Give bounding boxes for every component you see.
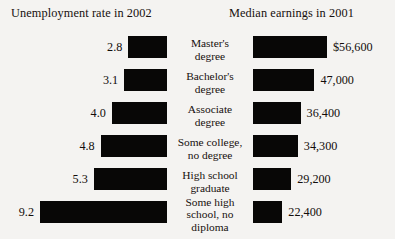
earnings-value-label: 29,200: [297, 170, 331, 188]
chart-row: 9.2 Some high school, no diploma 22,400: [0, 198, 395, 231]
earnings-bar-zone: 47,000: [253, 66, 395, 99]
category-label-line2: degree: [195, 50, 225, 62]
unemployment-value-label: 2.8: [107, 38, 122, 56]
unemployment-bar-zone: 4.8: [0, 132, 167, 165]
chart-row: 4.8 Some college, no degree 34,300: [0, 132, 395, 165]
category-label-line2: degree: [195, 116, 225, 128]
unemployment-value-label: 9.2: [19, 203, 34, 221]
category-label-line2: graduate: [190, 182, 229, 194]
earnings-value-label: 36,400: [307, 104, 341, 122]
unemployment-bar-zone: 4.0: [0, 99, 167, 132]
unemployment-bar-zone: 9.2: [0, 198, 167, 231]
earnings-bar-zone: 36,400: [253, 99, 395, 132]
unemployment-bar: [40, 201, 167, 223]
category-label-line3: diploma: [191, 221, 228, 233]
earnings-bar-zone: $56,600: [253, 33, 395, 66]
category-label: Associate degree: [172, 99, 248, 132]
earnings-value-label: 22,400: [288, 203, 322, 221]
chart-row: 4.0 Associate degree 36,400: [0, 99, 395, 132]
unemployment-value-label: 4.0: [91, 104, 106, 122]
unemployment-value-label: 4.8: [79, 137, 94, 155]
earnings-bar-zone: 29,200: [253, 165, 395, 198]
earnings-bar-zone: 22,400: [253, 198, 395, 231]
earnings-bar: [253, 201, 282, 223]
category-label: Master's degree: [172, 33, 248, 66]
unemployment-bar: [124, 69, 167, 91]
category-label-line2: no degree: [188, 149, 233, 161]
unemployment-bar: [112, 102, 167, 124]
earnings-bar: [253, 135, 298, 157]
earnings-bar: [253, 69, 314, 91]
category-label-line1: High school: [182, 169, 237, 181]
unemployment-bar-zone: 3.1: [0, 66, 167, 99]
earnings-value-label: 34,300: [304, 137, 338, 155]
unemployment-bar-zone: 2.8: [0, 33, 167, 66]
earnings-bar: [253, 36, 327, 58]
unemployment-bar: [94, 168, 167, 190]
category-label-line1: Associate: [188, 103, 232, 115]
category-label-line2: school, no: [187, 208, 234, 220]
category-label-line1: Some college,: [178, 136, 243, 148]
earnings-bar-zone: 34,300: [253, 132, 395, 165]
unemployment-bar-zone: 5.3: [0, 165, 167, 198]
chart-row: 2.8 Master's degree $56,600: [0, 33, 395, 66]
category-label: Some college, no degree: [172, 132, 248, 165]
chart-row: 5.3 High school graduate 29,200: [0, 165, 395, 198]
unemployment-bar: [128, 36, 167, 58]
unemployment-value-label: 3.1: [103, 71, 118, 89]
earnings-value-label: $56,600: [333, 38, 373, 56]
earnings-value-label: 47,000: [320, 71, 354, 89]
earnings-bar: [253, 168, 291, 190]
right-chart-title: Median earnings in 2001: [229, 6, 354, 21]
category-label-line1: Bachelor's: [186, 70, 234, 82]
category-label: Some high school, no diploma: [172, 198, 248, 231]
unemployment-value-label: 5.3: [73, 170, 88, 188]
chart-row: 3.1 Bachelor's degree 47,000: [0, 66, 395, 99]
left-chart-title: Unemployment rate in 2002: [11, 6, 152, 21]
category-label: High school graduate: [172, 165, 248, 198]
unemployment-bar: [101, 135, 167, 157]
education-earnings-figure: Unemployment rate in 2002 Median earning…: [0, 0, 395, 239]
category-label-line1: Master's: [191, 37, 229, 49]
category-label: Bachelor's degree: [172, 66, 248, 99]
chart-rows: 2.8 Master's degree $56,600 3.1 Bachelor…: [0, 31, 395, 239]
category-label-line1: Some high: [185, 196, 234, 208]
earnings-bar: [253, 102, 301, 124]
category-label-line2: degree: [195, 83, 225, 95]
